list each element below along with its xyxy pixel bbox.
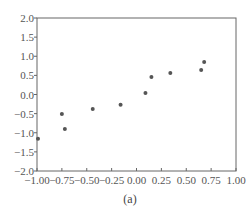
data-point — [63, 127, 67, 131]
y-tick-label: −1.5 — [14, 146, 34, 158]
data-point — [119, 103, 123, 107]
x-tick-label: 1.00 — [226, 174, 246, 186]
y-tick-label: 1.0 — [20, 50, 34, 62]
x-tick-label: −0.75 — [49, 174, 75, 186]
x-tick-label: −0.50 — [74, 174, 100, 186]
x-tick-label: 0.75 — [202, 174, 222, 186]
y-tick-label: −1.0 — [14, 127, 34, 139]
data-point — [202, 60, 206, 64]
chart-caption: (a) — [123, 192, 136, 206]
y-tick-label: 0.0 — [20, 89, 34, 101]
x-tick-label: −0.25 — [99, 174, 125, 186]
y-tick-label: −0.5 — [14, 108, 34, 120]
x-tick-label: 0.25 — [152, 174, 172, 186]
x-tick-label: 0.00 — [127, 174, 147, 186]
data-point — [199, 68, 203, 72]
y-tick-label: −2.0 — [14, 165, 34, 177]
y-tick-label: 2.0 — [20, 12, 34, 24]
plot-area — [37, 18, 236, 171]
y-axis: 2.01.51.00.50.0−0.5−1.0−1.5−2.0 — [14, 12, 37, 177]
data-point — [36, 137, 40, 141]
data-point — [91, 107, 95, 111]
y-tick-label: 1.5 — [20, 31, 34, 43]
data-point — [143, 91, 147, 95]
y-tick-label: 0.5 — [20, 69, 34, 81]
x-tick-label: 0.50 — [177, 174, 197, 186]
data-point — [149, 75, 153, 79]
scatter-chart: −1.00−0.75−0.50−0.250.000.250.500.751.00… — [0, 0, 252, 214]
data-point — [168, 71, 172, 75]
plot-border — [37, 18, 236, 171]
data-points — [36, 60, 206, 141]
data-point — [60, 112, 64, 116]
